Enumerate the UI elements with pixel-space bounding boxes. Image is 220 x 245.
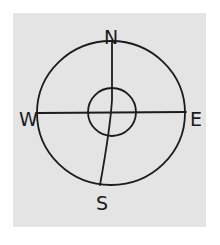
east-label: E	[190, 108, 202, 130]
east-west-line	[38, 112, 186, 113]
compass-rose: N W E S	[0, 0, 220, 245]
north-label: N	[104, 26, 118, 48]
south-label: S	[96, 192, 108, 214]
west-label: W	[19, 108, 38, 130]
